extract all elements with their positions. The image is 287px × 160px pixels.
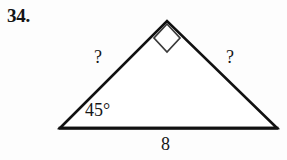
base-length-label: 8 — [161, 135, 170, 153]
geometry-figure: 34. ? ? 45° 8 — [0, 0, 287, 160]
right-side-length-label: ? — [226, 48, 234, 66]
triangle-diagram — [0, 0, 287, 160]
left-side-length-label: ? — [94, 48, 102, 66]
base-angle-label: 45° — [85, 101, 110, 119]
